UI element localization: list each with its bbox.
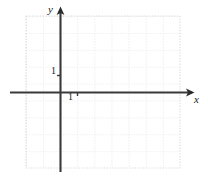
x-axis-tick-label-1: 1 — [68, 92, 73, 102]
plot-canvas — [0, 0, 208, 193]
y-axis-tick-label-1: 1 — [51, 66, 56, 76]
x-axis-label: x — [194, 94, 199, 105]
y-axis-label: y — [48, 4, 53, 15]
coordinate-grid-figure: y x 1 1 — [0, 0, 208, 193]
